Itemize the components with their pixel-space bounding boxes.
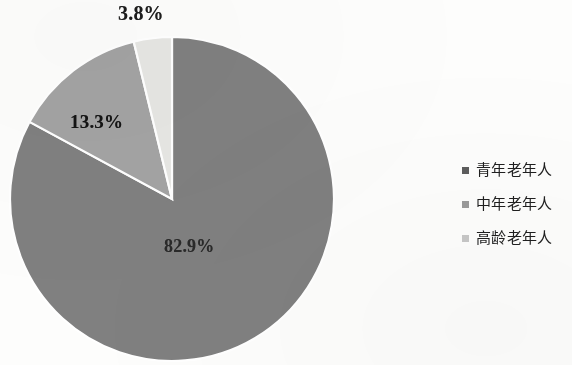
legend-item[interactable]: 青年老年人 xyxy=(462,160,553,180)
legend-item[interactable]: 高龄老年人 xyxy=(462,228,553,248)
legend-item-label: 高龄老年人 xyxy=(476,231,553,246)
legend-swatch-icon xyxy=(462,167,469,174)
legend-item-label: 青年老年人 xyxy=(476,163,553,178)
slice-label-young-elderly: 82.9% xyxy=(164,236,215,257)
chart-legend: 青年老年人中年老年人高龄老年人 xyxy=(462,160,553,248)
slice-label-mid-elderly: 13.3% xyxy=(70,111,123,133)
slice-label-high-age-elderly: 3.8% xyxy=(118,2,164,25)
legend-swatch-icon xyxy=(462,201,469,208)
legend-item[interactable]: 中年老年人 xyxy=(462,194,553,214)
pie-slices-group xyxy=(10,37,334,361)
legend-swatch-icon xyxy=(462,235,469,242)
legend-item-label: 中年老年人 xyxy=(476,197,553,212)
chart-canvas: 82.9% 13.3% 3.8% 青年老年人中年老年人高龄老年人 xyxy=(0,0,572,365)
